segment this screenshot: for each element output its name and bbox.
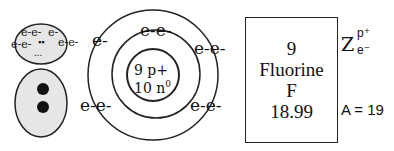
nucleus-protons: 9 p+ <box>134 63 168 77</box>
atomic-number: 9 <box>246 38 337 59</box>
atomic-mass: 18.99 <box>246 101 337 122</box>
outer-shell-electrons: e-e- <box>194 40 226 57</box>
inner-shell-electrons: e-e- <box>140 22 172 39</box>
element-symbol: F <box>246 80 337 101</box>
nucleus-neutrons: 10 n0 <box>134 80 171 95</box>
element-name: Fluorine <box>246 59 337 80</box>
head-electron-label: e-e- <box>11 39 31 50</box>
mass-number-label: A = 19 <box>341 102 384 117</box>
z-label: Z <box>341 35 354 54</box>
z-superscript: p⁺ <box>357 27 370 39</box>
body-dot <box>37 101 49 113</box>
outer-shell-electrons: e-e- <box>190 97 222 114</box>
neutron-superscript: 0 <box>165 79 171 89</box>
z-subscript: e⁻ <box>357 44 370 56</box>
head-small-dots: ... <box>34 48 42 58</box>
body-dot <box>37 83 49 95</box>
head-electron-label: e- <box>48 27 58 38</box>
outer-shell-electron: e- <box>92 32 108 49</box>
element-card: 9 Fluorine F 18.99 <box>245 17 338 143</box>
head-dots: ▪▪ <box>38 38 44 47</box>
head-electron-label: e-e- <box>58 37 78 48</box>
neutron-count: 10 n <box>134 80 165 96</box>
outer-shell-electrons: e-e- <box>80 97 112 114</box>
